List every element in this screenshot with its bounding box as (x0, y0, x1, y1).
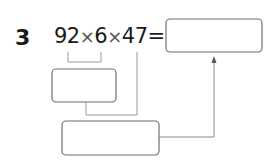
answer-box[interactable] (166, 19, 262, 52)
step2-box[interactable] (62, 121, 159, 155)
diagram-canvas (0, 0, 277, 164)
bracket-92-6 (68, 52, 101, 62)
step1-box[interactable] (52, 69, 116, 102)
arrow-head-icon (212, 56, 217, 63)
arrow-line (159, 62, 214, 137)
